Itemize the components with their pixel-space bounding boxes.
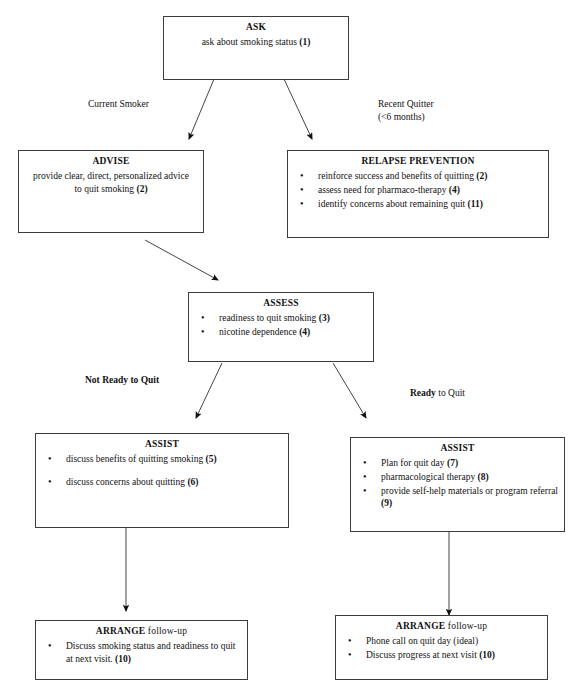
node-ask-body-text: ask about smoking status <box>202 37 297 47</box>
node-arrange-left-list: Discuss smoking status and readiness to … <box>36 640 247 666</box>
list-item: reinforce success and benefits of quitti… <box>288 170 542 183</box>
arrow-ask-to-relapse <box>284 79 312 139</box>
list-item: nicotine dependence (4) <box>189 326 367 339</box>
edge-label-ready-strong: Ready <box>410 388 436 398</box>
node-advise-line1: provide clear, direct, personalized advi… <box>33 171 189 181</box>
arrow-advise-to-assess <box>145 240 218 280</box>
node-arrange-left-title-strong: ARRANGE <box>96 626 145 636</box>
edge-label-ready-rest: to Quit <box>436 388 465 398</box>
arrow-assess-to-assist-not-ready <box>196 363 222 418</box>
list-item: identify concerns about remaining quit (… <box>288 198 542 211</box>
edge-label-ready-to-quit: Ready to Quit <box>410 374 465 400</box>
node-advise[interactable]: ADVISE provide clear, direct, personaliz… <box>18 150 204 233</box>
arrow-assess-to-assist-ready <box>333 363 366 418</box>
list-item: Plan for quit day (7) <box>351 457 558 470</box>
node-arrange-left[interactable]: ARRANGE follow-up Discuss smoking status… <box>35 620 248 680</box>
node-assess-list: readiness to quit smoking (3) nicotine d… <box>189 312 373 339</box>
node-assess[interactable]: ASSESS readiness to quit smoking (3) nic… <box>188 292 374 362</box>
node-arrange-right-title-rest: follow-up <box>445 621 487 631</box>
edge-label-recent-quitter: Recent Quitter (<6 months) <box>378 98 434 124</box>
node-ask-title: ASK <box>164 22 348 32</box>
node-ask[interactable]: ASK ask about smoking status (1) <box>163 16 349 80</box>
node-arrange-right-title: ARRANGE follow-up <box>336 621 547 631</box>
node-relapse-prevention-list: reinforce success and benefits of quitti… <box>288 170 548 210</box>
edge-label-current-smoker: Current Smoker <box>88 98 149 111</box>
list-item: discuss benefits of quitting smoking (5) <box>36 453 282 466</box>
node-assist-ready-title: ASSIST <box>351 443 564 453</box>
list-item: Phone call on quit day (ideal) <box>336 635 541 648</box>
node-advise-body: provide clear, direct, personalized advi… <box>19 170 203 196</box>
node-ask-body: ask about smoking status (1) <box>164 36 348 49</box>
node-arrange-right-list: Phone call on quit day (ideal) Discuss p… <box>336 635 547 662</box>
node-ask-ref: (1) <box>299 37 310 47</box>
list-item: Discuss progress at next visit (10) <box>336 649 541 662</box>
flowchart-canvas: ASK ask about smoking status (1) Current… <box>0 0 583 689</box>
node-arrange-left-title-rest: follow-up <box>145 626 187 636</box>
node-assess-title: ASSESS <box>189 298 373 308</box>
list-item: assess need for pharmaco-therapy (4) <box>288 184 542 197</box>
node-advise-title: ADVISE <box>19 156 203 166</box>
list-item: readiness to quit smoking (3) <box>189 312 367 325</box>
node-assist-ready-list: Plan for quit day (7) pharmacological th… <box>351 457 564 510</box>
node-assist-not-ready[interactable]: ASSIST discuss benefits of quitting smok… <box>35 433 289 528</box>
arrow-ask-to-advise <box>189 79 214 139</box>
node-arrange-right[interactable]: ARRANGE follow-up Phone call on quit day… <box>335 615 548 680</box>
list-item: Discuss smoking status and readiness to … <box>36 640 241 666</box>
node-advise-ref: (2) <box>136 184 147 194</box>
edge-label-not-ready-to-quit: Not Ready to Quit <box>85 374 159 387</box>
node-relapse-prevention[interactable]: RELAPSE PREVENTION reinforce success and… <box>287 150 549 238</box>
list-item: discuss concerns about quitting (6) <box>36 476 282 489</box>
node-advise-line2: to quit smoking <box>74 184 134 194</box>
node-assist-not-ready-list: discuss benefits of quitting smoking (5)… <box>36 453 288 489</box>
list-item: pharmacological therapy (8) <box>351 471 558 484</box>
node-assist-ready[interactable]: ASSIST Plan for quit day (7) pharmacolog… <box>350 437 565 532</box>
node-relapse-prevention-title: RELAPSE PREVENTION <box>288 156 548 166</box>
list-item: provide self-help materials or program r… <box>351 485 558 511</box>
node-arrange-right-title-strong: ARRANGE <box>396 621 445 631</box>
node-arrange-left-title: ARRANGE follow-up <box>36 626 247 636</box>
node-assist-not-ready-title: ASSIST <box>36 439 288 449</box>
